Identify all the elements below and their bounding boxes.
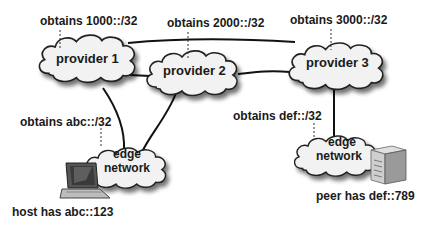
provider-3-label: provider 3 — [306, 55, 369, 70]
provider-2-prefix: obtains 2000::/32 — [167, 16, 265, 30]
server-icon — [371, 146, 406, 184]
edge-2-label-line1: edge — [328, 135, 356, 149]
link-p2-p3 — [238, 71, 290, 74]
provider-1-label: provider 1 — [56, 51, 119, 66]
provider-1-prefix: obtains 1000::/32 — [40, 14, 138, 28]
provider-3-prefix: obtains 3000::/32 — [290, 13, 388, 27]
host-label: host has abc::123 — [12, 205, 114, 219]
peer-label: peer has def::789 — [316, 189, 415, 203]
edge-1-label-line2: network — [104, 161, 150, 175]
link-p1-p3 — [128, 39, 295, 43]
edge-1-prefix: obtains abc::/32 — [20, 115, 112, 129]
link-p1-p2 — [130, 75, 150, 76]
link-p2-e1 — [142, 93, 176, 152]
edge-2-label-line2: network — [316, 149, 362, 163]
ipv6-addressing-diagram: provider 1 provider 2 provider 3 obtains… — [0, 0, 433, 228]
edge-1-label-line1: edge — [113, 147, 141, 161]
edge-2-prefix: obtains def::/32 — [233, 109, 322, 123]
provider-2-label: provider 2 — [163, 63, 226, 78]
